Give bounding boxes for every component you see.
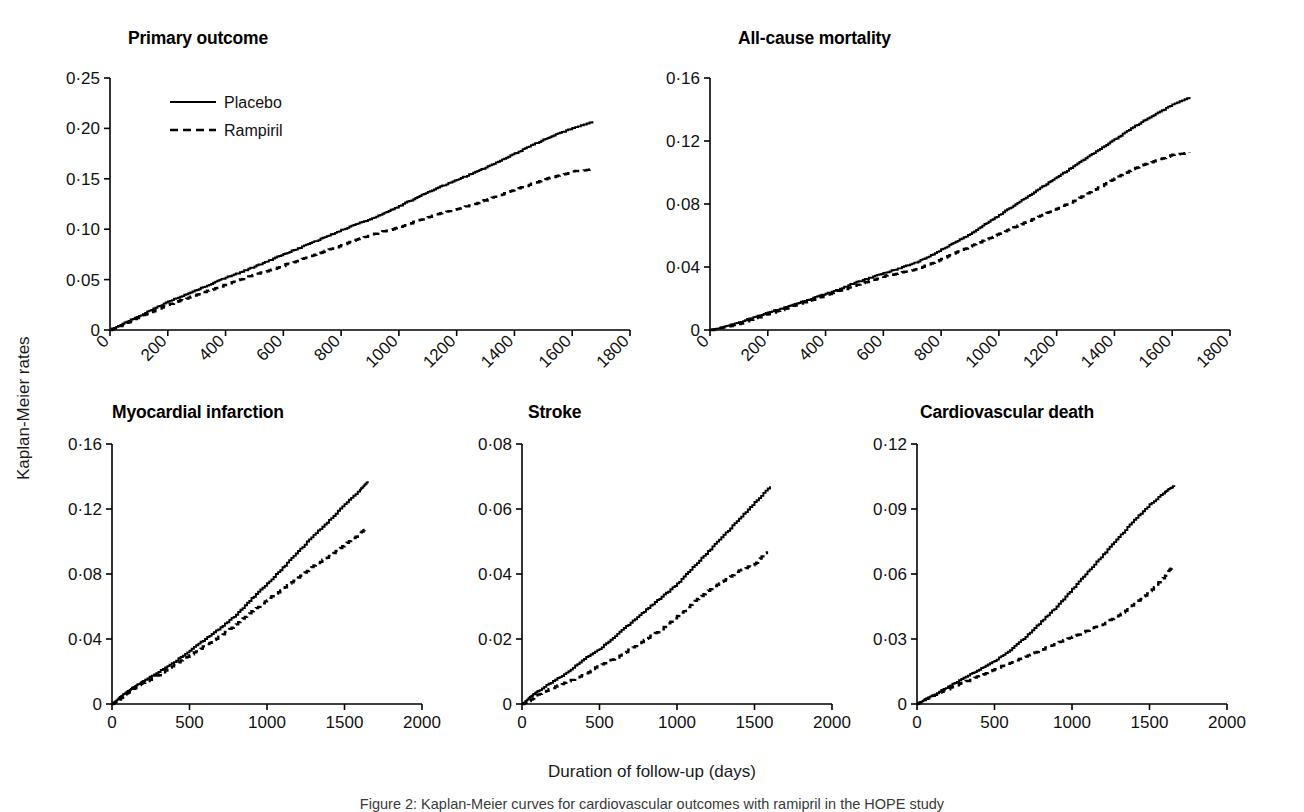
svg-text:1500: 1500	[736, 713, 774, 732]
svg-text:0·16: 0·16	[666, 69, 700, 88]
curve-placebo	[112, 481, 368, 704]
svg-text:0·15: 0·15	[66, 170, 100, 189]
svg-text:0·16: 0·16	[68, 435, 102, 454]
svg-text:0: 0	[898, 695, 907, 714]
svg-text:0·12: 0·12	[873, 435, 907, 454]
curve-rampiril	[522, 551, 767, 704]
svg-text:0·10: 0·10	[66, 220, 100, 239]
svg-text:0·04: 0·04	[68, 630, 102, 649]
svg-text:500: 500	[980, 713, 1008, 732]
svg-text:1500: 1500	[326, 713, 364, 732]
svg-text:600: 600	[853, 331, 886, 364]
svg-text:0: 0	[93, 695, 102, 714]
svg-text:1200: 1200	[419, 331, 459, 371]
svg-text:0: 0	[107, 713, 116, 732]
y-axis-label: Kaplan-Meier rates	[14, 336, 34, 480]
svg-text:1000: 1000	[1053, 713, 1091, 732]
chart-panel-myocardial-infarction: 00·040·080·120·160500100015002000	[50, 432, 450, 752]
svg-text:400: 400	[195, 331, 228, 364]
svg-text:1000: 1000	[362, 331, 402, 371]
svg-text:200: 200	[137, 331, 170, 364]
svg-text:0: 0	[517, 713, 526, 732]
svg-text:1400: 1400	[477, 331, 517, 371]
svg-text:2000: 2000	[813, 713, 851, 732]
svg-text:0·08: 0·08	[666, 195, 700, 214]
panel-title-myocardial-infarction: Myocardial infarction	[112, 402, 284, 423]
svg-text:1000: 1000	[962, 331, 1002, 371]
panel-title-cardiovascular-death: Cardiovascular death	[920, 402, 1094, 423]
panel-title-all-cause-mortality: All-cause mortality	[738, 28, 891, 49]
svg-text:0·12: 0·12	[666, 132, 700, 151]
chart-panel-primary-outcome: 00·050·100·150·200·250200400600800100012…	[50, 60, 650, 390]
svg-text:0·04: 0·04	[666, 258, 700, 277]
chart-panel-cardiovascular-death: 00·030·060·090·120500100015002000	[855, 432, 1255, 752]
svg-text:1800: 1800	[593, 331, 633, 371]
svg-text:0·12: 0·12	[68, 500, 102, 519]
svg-text:0·02: 0·02	[478, 630, 512, 649]
curve-placebo	[917, 485, 1174, 704]
svg-text:400: 400	[795, 331, 828, 364]
svg-text:1200: 1200	[1019, 331, 1059, 371]
svg-text:800: 800	[910, 331, 943, 364]
svg-text:800: 800	[310, 331, 343, 364]
svg-text:0·09: 0·09	[873, 500, 907, 519]
svg-text:1800: 1800	[1193, 331, 1233, 371]
svg-text:1000: 1000	[658, 713, 696, 732]
svg-text:1500: 1500	[1131, 713, 1169, 732]
curve-placebo	[522, 486, 770, 704]
x-axis-label: Duration of follow-up (days)	[0, 762, 1304, 782]
y-axis-label-wrap: Kaplan-Meier rates	[0, 0, 46, 810]
svg-text:0: 0	[503, 695, 512, 714]
svg-text:1000: 1000	[248, 713, 286, 732]
chart-panel-stroke: 00·020·040·060·080500100015002000	[460, 432, 860, 752]
svg-text:0·06: 0·06	[873, 565, 907, 584]
svg-text:0·20: 0·20	[66, 119, 100, 138]
legend-label-placebo: Placebo	[224, 94, 282, 111]
figure-caption: Figure 2: Kaplan-Meier curves for cardio…	[0, 796, 1304, 812]
curve-rampiril	[710, 152, 1190, 330]
svg-text:1600: 1600	[535, 331, 575, 371]
chart-panel-all-cause-mortality: 00·040·080·120·1602004006008001000120014…	[650, 60, 1250, 390]
curve-placebo	[710, 97, 1190, 330]
svg-text:1400: 1400	[1077, 331, 1117, 371]
svg-text:0·04: 0·04	[478, 565, 512, 584]
curve-placebo	[110, 121, 592, 330]
svg-text:0·05: 0·05	[66, 271, 100, 290]
svg-text:1600: 1600	[1135, 331, 1175, 371]
svg-text:2000: 2000	[1208, 713, 1246, 732]
svg-text:0·06: 0·06	[478, 500, 512, 519]
svg-text:500: 500	[175, 713, 203, 732]
svg-text:0: 0	[912, 713, 921, 732]
svg-text:0·03: 0·03	[873, 630, 907, 649]
legend-label-ramipril: Rampiril	[224, 122, 283, 139]
svg-text:0·08: 0·08	[478, 435, 512, 454]
svg-text:0·25: 0·25	[66, 69, 100, 88]
panel-title-primary-outcome: Primary outcome	[128, 28, 268, 49]
svg-text:500: 500	[585, 713, 613, 732]
svg-text:2000: 2000	[403, 713, 441, 732]
svg-text:0·08: 0·08	[68, 565, 102, 584]
curve-rampiril	[110, 169, 592, 330]
svg-text:200: 200	[737, 331, 770, 364]
panel-title-stroke: Stroke	[528, 402, 581, 423]
svg-text:600: 600	[253, 331, 286, 364]
